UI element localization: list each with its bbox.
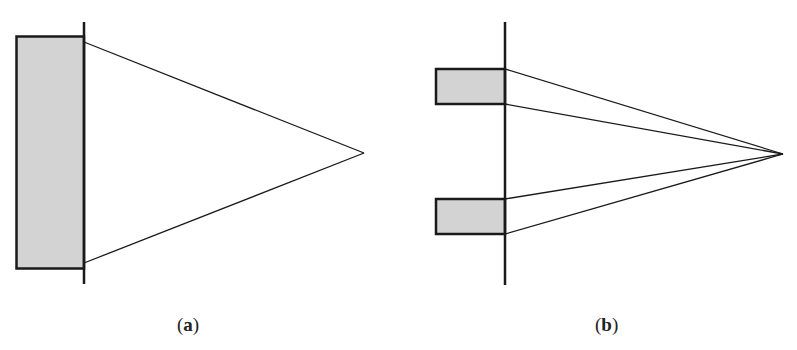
caption-letter: b bbox=[601, 314, 612, 335]
caption-paren: ) bbox=[612, 314, 618, 335]
aperture-block-a bbox=[17, 37, 85, 269]
caption-b: (b) bbox=[595, 314, 618, 336]
aperture-block-b-top bbox=[436, 69, 505, 104]
caption-letter: a bbox=[183, 314, 193, 335]
aperture-block-b-bottom bbox=[436, 199, 505, 234]
diagram-canvas bbox=[0, 0, 797, 350]
panel-b bbox=[436, 22, 783, 285]
panel-a bbox=[17, 22, 365, 284]
ray-b-3 bbox=[505, 154, 783, 199]
caption-a: (a) bbox=[177, 314, 199, 336]
caption-paren: ) bbox=[193, 314, 199, 335]
ray-b-4 bbox=[505, 154, 783, 234]
ray-upper-a bbox=[84, 42, 364, 153]
ray-lower-a bbox=[84, 153, 364, 263]
